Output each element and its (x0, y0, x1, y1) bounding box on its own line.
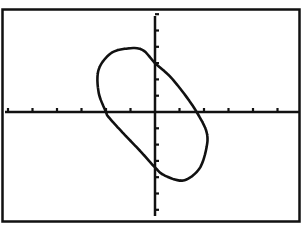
graph-canvas (0, 0, 304, 234)
screen-frame (3, 10, 300, 222)
calculator-graph-screen (0, 0, 304, 234)
